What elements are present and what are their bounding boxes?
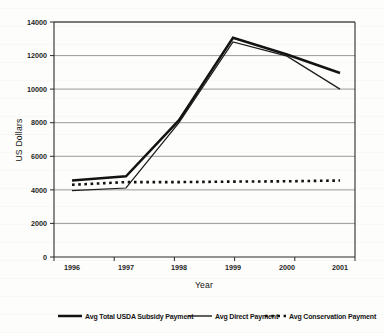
x-tick-label: 1996 (64, 263, 80, 272)
x-axis-tick-labels: 1996 1997 1998 1999 2000 2001 (64, 263, 348, 272)
y-axis-tick-labels: 14000 12000 10000 8000 6000 4000 2000 0 (27, 18, 47, 262)
x-tick-label: 1997 (118, 263, 134, 272)
y-tick-label: 0 (43, 253, 47, 262)
chart-canvas: 14000 12000 10000 8000 6000 4000 2000 0 … (0, 0, 384, 333)
legend-label-total: Avg Total USDA Subsidy Payment (85, 313, 194, 321)
y-tick-label: 4000 (31, 186, 47, 195)
chart-legend: Avg Total USDA Subsidy Payment Avg Direc… (58, 313, 377, 321)
y-tick-label: 8000 (31, 118, 47, 127)
x-tick-label: 2000 (279, 263, 295, 272)
y-axis-ticks (50, 22, 54, 257)
legend-label-conservation: Avg Conservation Payment (289, 313, 377, 321)
y-axis-title: US Dollars (14, 118, 24, 161)
series-avg-conservation-payment (72, 181, 340, 185)
y-tick-label: 2000 (31, 219, 47, 228)
series-avg-total-usda-subsidy-payment (72, 38, 340, 181)
grid-lines (54, 22, 355, 223)
x-axis-ticks (54, 257, 355, 261)
y-tick-label: 12000 (27, 51, 47, 60)
line-chart: 14000 12000 10000 8000 6000 4000 2000 0 … (0, 0, 384, 333)
y-tick-label: 14000 (27, 18, 47, 27)
series-avg-direct-payment (72, 42, 340, 191)
x-tick-label: 1999 (225, 263, 241, 272)
y-tick-label: 6000 (31, 152, 47, 161)
legend-label-direct: Avg Direct Payment (215, 313, 279, 321)
y-tick-label: 10000 (27, 85, 47, 94)
x-tick-label: 1998 (171, 263, 187, 272)
x-tick-label: 2001 (332, 263, 348, 272)
x-axis-title: Year (195, 280, 213, 290)
plot-frame (54, 22, 355, 257)
